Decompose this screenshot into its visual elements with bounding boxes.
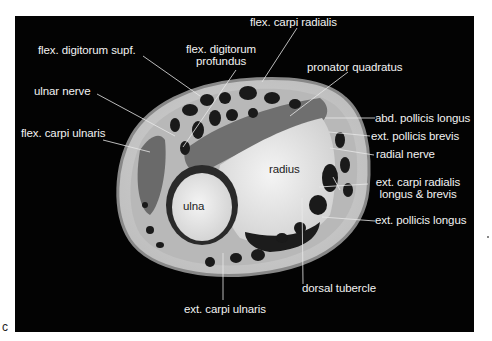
label-abd-pollicis-longus: abd. pollicis longus xyxy=(375,112,470,124)
mri-panel: flex. carpi radialis flex. digitorum sup… xyxy=(15,16,474,332)
label-ulna: ulna xyxy=(183,200,204,212)
label-flex-digitorum-supf: flex. digitorum supf. xyxy=(38,44,136,56)
label-flex-carpi-radialis: flex. carpi radialis xyxy=(250,16,337,28)
label-flex-digitorum-profundus: flex. digitorum profundus xyxy=(180,43,262,67)
label-radius: radius xyxy=(269,163,300,175)
label-ext-pollicis-brevis: ext. pollicis brevis xyxy=(371,130,459,142)
label-flex-carpi-ulnaris: flex. carpi ulnaris xyxy=(21,127,105,139)
label-ext-carpi-ulnaris: ext. carpi ulnaris xyxy=(184,303,266,315)
label-pronator-quadratus: pronator quadratus xyxy=(307,61,402,73)
label-radial-nerve: radial nerve xyxy=(376,148,435,160)
speck xyxy=(487,236,489,238)
panel-letter: c xyxy=(2,320,8,334)
label-dorsal-tubercle: dorsal tubercle xyxy=(302,282,376,294)
label-ext-carpi-radialis: ext. carpi radialis longus & brevis xyxy=(368,176,468,200)
label-ext-pollicis-longus: ext. pollicis longus xyxy=(375,214,466,226)
label-ulnar-nerve: ulnar nerve xyxy=(34,85,90,97)
